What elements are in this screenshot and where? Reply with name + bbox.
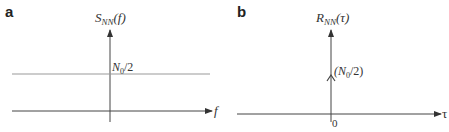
x-axis-label-a: f [214, 103, 220, 118]
panel-a: a SNN(f) N0/2 f [5, 3, 220, 122]
impulse-weight-label: (N0/2) [334, 64, 363, 80]
panel-label-b: b [237, 3, 246, 20]
figure: a SNN(f) N0/2 f b RNN(τ) (N0/2) [0, 0, 449, 132]
origin-label-b: 0 [332, 117, 338, 129]
level-label-a: N0/2 [111, 60, 133, 76]
y-axis-label-a: SNN(f) [95, 10, 126, 27]
panel-label-a: a [5, 3, 14, 20]
y-axis-label-b: RNN(τ) [315, 10, 349, 27]
panel-b: b RNN(τ) (N0/2) 0 τ [237, 3, 447, 129]
x-axis-label-b: τ [442, 106, 447, 121]
